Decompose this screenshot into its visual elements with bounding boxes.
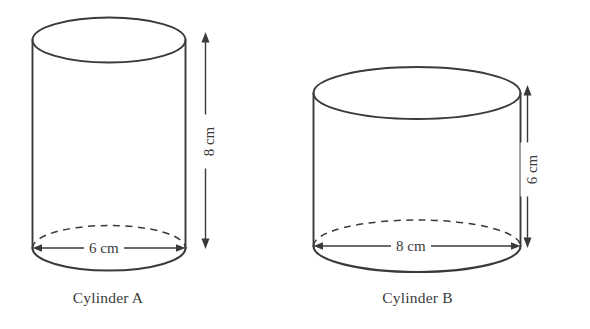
cylinder-a-height-arrowhead-bottom <box>202 239 210 250</box>
cylinder-drawing-svg <box>0 0 590 329</box>
cylinder-a-caption: Cylinder A <box>28 289 188 307</box>
cylinder-a-diameter-label: 6 cm <box>84 240 124 257</box>
cylinder-a-height-label: 8 cm <box>198 115 221 169</box>
cylinder-comparison-figure: 6 cm 8 cm 8 cm 6 cm Cylinder A Cylinder … <box>0 0 590 329</box>
cylinder-b-caption: Cylinder B <box>310 289 525 307</box>
cylinder-a-height-arrowhead-top <box>202 32 210 43</box>
cylinder-a-shape <box>33 18 186 271</box>
cylinder-b-diameter-label: 8 cm <box>391 238 431 255</box>
cylinder-b-top-ellipse <box>314 67 521 119</box>
cylinder-b-height-arrowhead-top <box>524 85 532 96</box>
cylinder-b-height-arrowhead-bottom <box>524 238 532 249</box>
cylinder-b-height-label: 6 cm <box>521 143 544 197</box>
cylinder-a-top-ellipse <box>33 18 186 63</box>
